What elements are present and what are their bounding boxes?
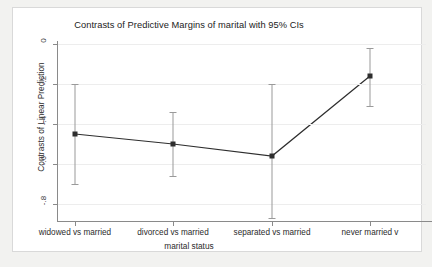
x-axis-tick	[370, 221, 371, 226]
x-axis-tick	[75, 221, 76, 226]
error-bar-cap	[170, 112, 177, 113]
y-axis-tick	[53, 204, 58, 205]
series-polyline	[75, 76, 370, 156]
data-point-marker	[368, 74, 373, 79]
y-axis-tick	[53, 164, 58, 165]
chart-title: Contrasts of Predictive Margins of marit…	[13, 20, 365, 30]
y-axis-tick-label: 0	[35, 36, 51, 52]
error-bar-cap	[269, 218, 276, 219]
x-axis-tick-label: divorced vs married	[137, 228, 208, 237]
data-point-marker	[73, 132, 78, 137]
error-bar	[272, 84, 273, 218]
plot-area	[58, 44, 426, 221]
x-axis-tick	[272, 221, 273, 226]
x-axis-title: marital status	[13, 241, 365, 251]
y-axis-tick-label: -.8	[35, 196, 51, 212]
series-line	[58, 44, 426, 221]
y-axis-tick	[53, 124, 58, 125]
error-bar-cap	[367, 48, 374, 49]
x-axis-tick-label: widowed vs married	[39, 228, 111, 237]
gridline	[58, 204, 426, 205]
x-axis-tick-label: never married v	[342, 228, 399, 237]
x-axis-line	[57, 221, 432, 222]
data-point-marker	[270, 154, 275, 159]
graph-panel: Contrasts of Predictive Margins of marit…	[12, 7, 422, 252]
x-axis-tick-label: separated vs married	[234, 228, 311, 237]
x-axis-tick	[173, 221, 174, 226]
gridline	[58, 164, 426, 165]
y-axis-tick-label: -.4	[35, 116, 51, 132]
y-axis-tick-label-text: -.2	[39, 68, 48, 94]
gridline	[58, 44, 426, 45]
error-bar-cap	[72, 184, 79, 185]
y-axis-tick	[53, 84, 58, 85]
gridline	[58, 124, 426, 125]
y-axis-tick-label-text: -.6	[39, 148, 48, 174]
y-axis-tick-label-text: -.4	[39, 108, 48, 134]
y-axis-tick	[53, 44, 58, 45]
y-axis-tick-label-text: 0	[39, 28, 48, 54]
y-axis-tick-label: -.6	[35, 156, 51, 172]
data-point-marker	[171, 142, 176, 147]
y-axis-tick-label: -.2	[35, 76, 51, 92]
error-bar-cap	[170, 176, 177, 177]
error-bar-cap	[72, 84, 79, 85]
y-axis-tick-label-text: -.8	[39, 188, 48, 214]
error-bar-cap	[269, 84, 276, 85]
error-bar-cap	[367, 106, 374, 107]
gridline	[58, 84, 426, 85]
